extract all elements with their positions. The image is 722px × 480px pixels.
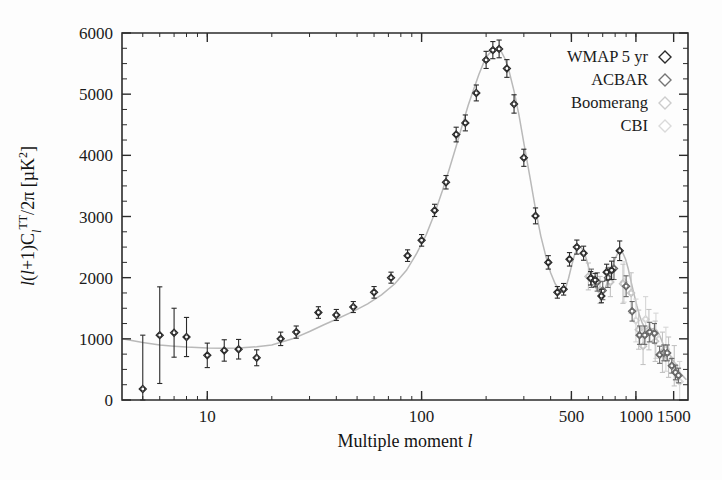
- cmb-power-spectrum-figure: 0100020003000400050006000101005001000150…: [0, 0, 722, 480]
- x-tick-label: 1000: [619, 407, 653, 426]
- y-tick-label: 6000: [79, 24, 113, 43]
- y-tick-label: 4000: [79, 146, 113, 165]
- series-wmap-5-yr: [139, 40, 623, 400]
- legend-label-cbi: CBI: [620, 116, 648, 135]
- legend-marker-cbi: [659, 120, 671, 132]
- svg-text:Multiple moment l: Multiple moment l: [337, 431, 472, 451]
- legend-label-boomerang: Boomerang: [571, 93, 648, 112]
- y-tick-label: 0: [105, 391, 114, 410]
- x-tick-label: 500: [559, 407, 585, 426]
- x-tick-label: 100: [409, 407, 435, 426]
- y-tick-label: 5000: [79, 85, 113, 104]
- y-axis-label: l(l+1)ClTT/2π [µK2]: [16, 146, 44, 286]
- y-tick-label: 3000: [79, 208, 113, 227]
- legend-label-acbar: ACBAR: [591, 70, 648, 89]
- y-tick-label: 2000: [79, 269, 113, 288]
- y-tick-label: 1000: [79, 330, 113, 349]
- legend-label-wmap-5-yr: WMAP 5 yr: [567, 47, 648, 66]
- x-tick-label: 10: [199, 407, 216, 426]
- x-tick-label: 1500: [657, 407, 691, 426]
- x-axis-label-symbol: l: [467, 431, 472, 451]
- svg-text:l(l+1)ClTT/2π [µK2]: l(l+1)ClTT/2π [µK2]: [16, 146, 44, 286]
- x-axis-label: Multiple moment l: [337, 431, 472, 451]
- legend-marker-wmap-5-yr: [659, 51, 671, 63]
- x-axis-label-text: Multiple moment: [337, 431, 467, 451]
- legend-marker-boomerang: [659, 97, 671, 109]
- legend-marker-acbar: [659, 74, 671, 86]
- chart-canvas: 0100020003000400050006000101005001000150…: [0, 0, 722, 480]
- legend-layer: WMAP 5 yrACBARBoomerangCBI: [567, 47, 671, 135]
